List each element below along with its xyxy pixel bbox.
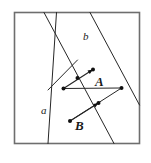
point-right-upper [120,86,124,90]
point-intersection-upper [76,76,80,80]
vector-label-B: B [75,119,84,132]
point-vector-B-tip [97,101,101,105]
lines-layer [44,13,140,144]
transversal-upper [90,13,140,106]
point-vector-A-tip [91,68,95,72]
point-vector-B-tail [68,119,72,123]
geometry-figure: abAB [0,0,151,163]
line-label-a: a [41,105,47,116]
vector-label-A: A [95,75,104,88]
point-vector-A-tail [62,87,66,91]
line-a [48,13,57,144]
points-layer [62,68,124,124]
line-label-b: b [83,31,89,42]
segment-parallel-upper [64,88,122,89]
geometry-canvas [0,0,151,163]
vectors-layer [64,70,99,122]
